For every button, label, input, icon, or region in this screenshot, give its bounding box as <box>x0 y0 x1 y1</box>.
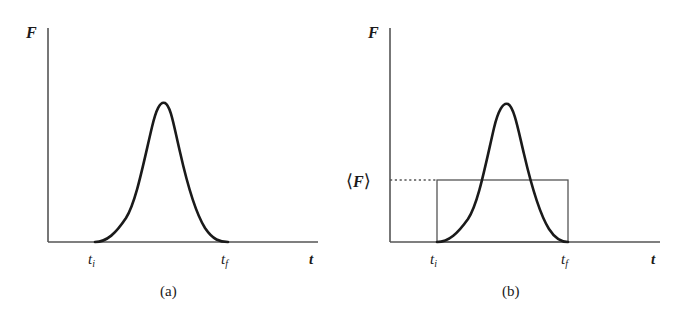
y-axis-label-a: F <box>26 25 37 41</box>
tick-sub-tf-a: f <box>225 258 228 269</box>
tick-sub-ti-b: i <box>434 258 437 269</box>
x-axis-label-b: t <box>651 252 655 267</box>
x-axis-label-a: t <box>309 252 313 267</box>
tick-label-tf-a: tf <box>221 252 228 267</box>
angle-bracket-open-icon: ⟨ <box>346 171 353 191</box>
caption-a: (a) <box>160 284 177 299</box>
panel-a: F t ti tf (a) <box>0 0 342 314</box>
average-force-label: ⟨F⟩ <box>346 172 371 190</box>
caption-b: (b) <box>502 284 520 299</box>
tick-sub-tf-b: f <box>565 258 568 269</box>
force-curve-a <box>95 103 228 242</box>
angle-bracket-close-icon: ⟩ <box>364 171 371 191</box>
panel-a-plot <box>0 0 342 314</box>
force-time-figure: F t ti tf (a) F t ⟨F⟩ ti <box>0 0 684 314</box>
force-curve-b <box>437 104 568 242</box>
panel-b-plot <box>342 0 684 314</box>
average-force-symbol: F <box>353 173 364 190</box>
tick-label-tf-b: tf <box>561 252 568 267</box>
panel-b: F t ⟨F⟩ ti tf (b) <box>342 0 684 314</box>
tick-sub-ti-a: i <box>92 258 95 269</box>
y-axis-label-b: F <box>368 25 379 41</box>
tick-label-ti-a: ti <box>88 252 95 267</box>
tick-label-ti-b: ti <box>430 252 437 267</box>
